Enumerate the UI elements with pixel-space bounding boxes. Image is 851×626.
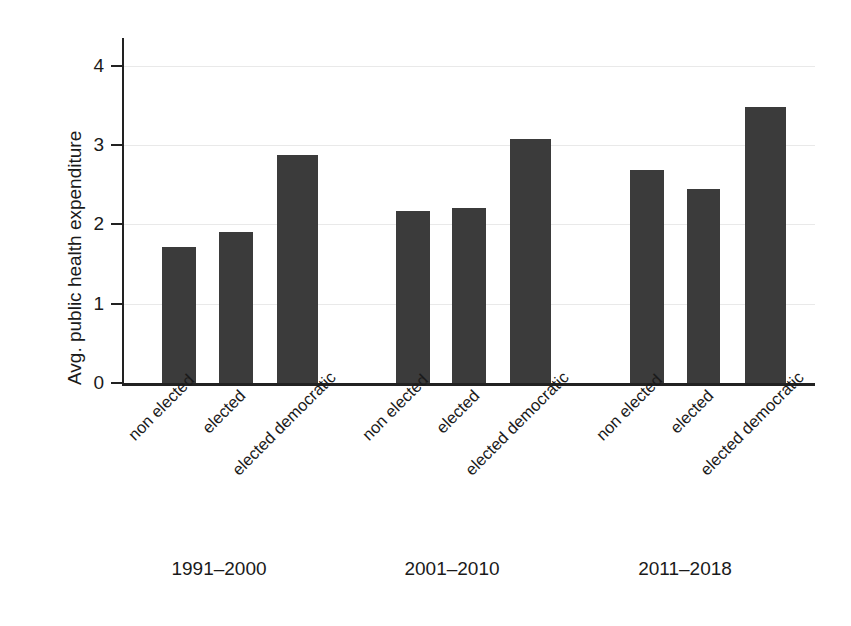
- bar-2001-2010-non-elected: [396, 211, 430, 383]
- x-label-2011-2018-elected: elected: [667, 387, 717, 437]
- gridline-3: [124, 145, 815, 146]
- bar-2011-2018-non-elected: [630, 170, 664, 383]
- bar-chart-figure: Avg. public health expenditure 0 1 2 3: [0, 0, 851, 626]
- x-label-2001-2010-elected: elected: [433, 387, 483, 437]
- group-label-1991-2000: 1991–2000: [119, 558, 319, 580]
- bar-2001-2010-elected: [452, 208, 486, 383]
- y-tick-mark-0: [111, 382, 122, 384]
- y-axis-line: [122, 38, 124, 383]
- y-tick-label-3: 3: [78, 135, 104, 154]
- y-tick-label-1: 1: [78, 294, 104, 313]
- bar-1991-2000-elected-democratic: [277, 155, 318, 383]
- bar-2011-2018-elected-democratic: [745, 107, 786, 383]
- bar-2011-2018-elected: [687, 189, 720, 383]
- y-tick-label-4: 4: [78, 56, 104, 75]
- bar-2001-2010-elected-democratic: [510, 139, 551, 383]
- bar-1991-2000-elected: [219, 232, 253, 383]
- y-tick-mark-3: [111, 144, 122, 146]
- y-tick-mark-1: [111, 303, 122, 305]
- y-tick-label-2: 2: [78, 214, 104, 233]
- plot-area: 0 1 2 3 4: [122, 38, 815, 383]
- y-tick-mark-2: [111, 223, 122, 225]
- y-tick-mark-4: [111, 65, 122, 67]
- group-label-2001-2010: 2001–2010: [352, 558, 552, 580]
- bar-1991-2000-non-elected: [162, 247, 196, 383]
- x-label-1991-2000-elected: elected: [199, 387, 249, 437]
- group-label-2011-2018: 2011–2018: [585, 558, 785, 580]
- y-tick-label-0: 0: [78, 373, 104, 392]
- x-axis-line: [122, 383, 815, 386]
- gridline-4: [124, 66, 815, 67]
